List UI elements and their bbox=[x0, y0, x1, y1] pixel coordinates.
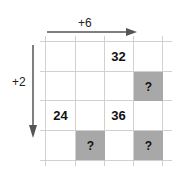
vertical-step-label: +2 bbox=[12, 75, 26, 89]
grid-line bbox=[40, 160, 172, 161]
grid-cell-r2-c0: 24 bbox=[46, 101, 75, 130]
grid-cell-r2-c2: 36 bbox=[104, 101, 133, 130]
grid-cell-r0-c2: 32 bbox=[104, 42, 133, 71]
unknown-cell-r3-c1: ? bbox=[76, 131, 105, 160]
down-arrow-icon bbox=[28, 45, 38, 139]
unknown-cell-r1-c3: ? bbox=[134, 72, 163, 101]
unknown-cell-r3-c3: ? bbox=[134, 131, 163, 160]
right-arrow-icon bbox=[46, 27, 138, 37]
